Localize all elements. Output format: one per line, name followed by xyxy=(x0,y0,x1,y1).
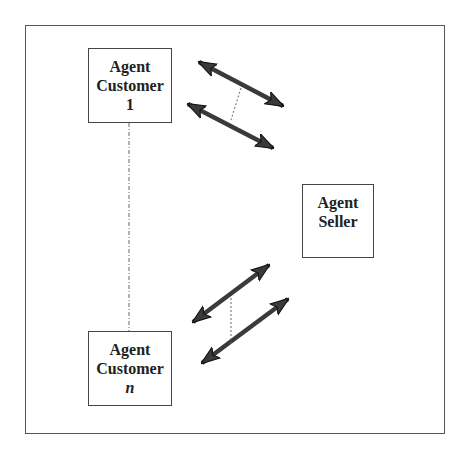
node-label-line: Agent xyxy=(318,193,359,212)
node-label-line: Agent xyxy=(110,340,151,359)
node-label-line: Seller xyxy=(318,212,357,231)
connections-layer xyxy=(0,0,469,457)
double-arrow-icon xyxy=(199,62,283,106)
node-label-line: Customer xyxy=(96,359,164,378)
node-label-line: 1 xyxy=(126,95,134,114)
agent-customer-n-box: Agent Customer n xyxy=(88,331,172,406)
customerN-seller-arrows xyxy=(193,265,288,363)
customer1-seller-arrows xyxy=(188,62,283,148)
node-label-line: Customer xyxy=(96,76,164,95)
double-arrow-icon xyxy=(202,299,288,363)
agent-customer-1-box: Agent Customer 1 xyxy=(88,48,172,123)
dashed-link xyxy=(231,88,241,120)
double-arrow-icon xyxy=(188,104,273,148)
double-arrow-icon xyxy=(193,265,269,322)
agent-seller-box: Agent Seller xyxy=(302,184,374,258)
node-label-line: n xyxy=(126,378,135,397)
node-label-line: Agent xyxy=(110,57,151,76)
